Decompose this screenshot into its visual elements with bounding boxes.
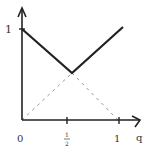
x-tick-label-half-denominator: 2	[65, 140, 69, 147]
origin-label: 0	[17, 133, 23, 144]
x-axis-arrow-icon	[132, 116, 140, 127]
dashed-line-y-equals-1-minus-q	[72, 73, 118, 120]
x-tick-label-one: 1	[114, 133, 120, 144]
y-tick-label-one: 1	[5, 23, 12, 36]
solid-v-curve	[22, 27, 123, 73]
dashed-line-y-equals-q	[22, 73, 72, 120]
x-tick-label-half-numerator: 1	[65, 131, 69, 138]
plot-canvas: 1 0 1 2 1 q	[0, 0, 149, 154]
x-axis-label: q	[136, 132, 143, 143]
